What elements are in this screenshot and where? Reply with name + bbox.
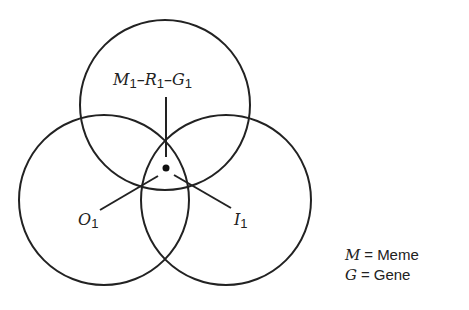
left-circle (19, 115, 189, 285)
venn-diagram: M1–R1–G1 O1 I1 M=Meme G=Gene (0, 0, 469, 310)
legend-item-gene: G=Gene (345, 266, 410, 284)
center-dot (163, 165, 170, 172)
left-label: O1 (78, 210, 98, 231)
right-label: I1 (233, 210, 248, 231)
right-pointer-line (174, 175, 231, 208)
legend: M=Meme G=Gene (344, 246, 419, 284)
top-label: M1–R1–G1 (112, 70, 192, 91)
legend-item-meme: M=Meme (344, 246, 419, 264)
